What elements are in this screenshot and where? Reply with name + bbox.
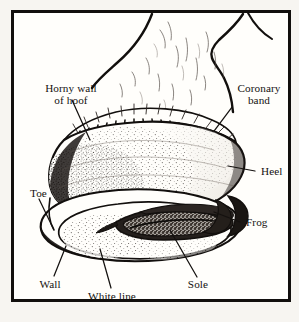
label-frog: Frog — [246, 216, 268, 228]
label-toe: Toe — [30, 187, 47, 199]
label-sole: Sole — [188, 278, 208, 290]
label-wall: Wall — [39, 278, 60, 290]
hoof-diagram-canvas: Horny wall of hoof Coronary band Heel Fr… — [0, 0, 299, 322]
label-coronary-band-line1: Coronary — [237, 82, 280, 94]
hoof-diagram-figure: Horny wall of hoof Coronary band Heel Fr… — [0, 0, 299, 322]
label-white-line: White line — [88, 290, 136, 302]
label-horny-wall-line1: Horny wall — [45, 82, 97, 94]
label-coronary-band-line2: band — [248, 94, 270, 106]
label-horny-wall-line2: of hoof — [54, 94, 87, 106]
label-heel: Heel — [261, 165, 283, 177]
